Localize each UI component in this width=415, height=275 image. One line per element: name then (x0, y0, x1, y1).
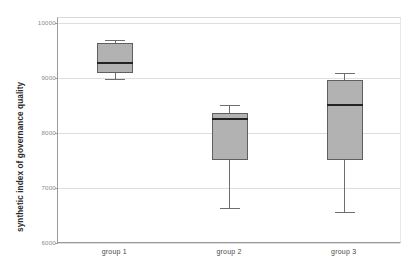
upper-whisker (229, 105, 230, 113)
lower-whisker-cap (105, 79, 125, 80)
upper-whisker-cap (105, 40, 125, 41)
upper-whisker-cap (335, 73, 355, 74)
boxplot-series (287, 18, 402, 242)
y-axis-title-container: synthetic index of governance quality (0, 0, 22, 250)
lower-whisker-cap (220, 208, 240, 209)
median-line (97, 62, 133, 64)
x-axis-tick-label: group 2 (216, 248, 241, 255)
y-axis-tickmark (55, 243, 58, 244)
lower-whisker-cap (335, 212, 355, 213)
y-axis-tick-label: 8000 (26, 129, 56, 136)
box-iqr (97, 43, 133, 73)
y-axis-tick-labels: 600070008000900010000 (22, 0, 56, 275)
x-axis-tick-label: group 1 (102, 248, 127, 255)
upper-whisker-cap (220, 105, 240, 106)
boxplot-series (58, 18, 173, 242)
y-axis-tick-label: 9000 (26, 74, 56, 81)
x-axis-tick-label: group 3 (331, 248, 356, 255)
box-iqr (212, 113, 248, 161)
y-axis-tick-label: 6000 (26, 239, 56, 246)
median-line (327, 104, 363, 106)
gridline (58, 243, 400, 244)
lower-whisker (229, 160, 230, 208)
lower-whisker (344, 160, 345, 212)
box-iqr (327, 80, 363, 161)
boxplot-series (173, 18, 288, 242)
plot-area (58, 18, 400, 242)
x-axis-tick-labels: group 1group 2group 3 (57, 248, 401, 268)
upper-whisker (344, 73, 345, 80)
y-axis-tick-label: 10000 (26, 19, 56, 26)
y-axis-tick-label: 7000 (26, 184, 56, 191)
boxplot-chart: synthetic index of governance quality 60… (0, 0, 415, 275)
median-line (212, 118, 248, 120)
plot-frame (57, 17, 401, 243)
